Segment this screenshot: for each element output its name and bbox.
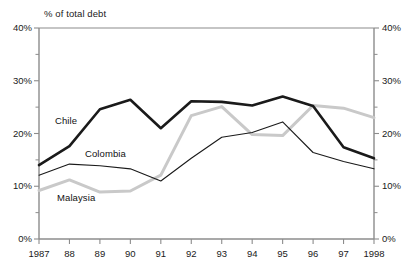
y-axis-label-right-40: 40% <box>382 22 402 33</box>
x-axis-label-92: 92 <box>186 248 197 259</box>
x-axis-label-1987: 1987 <box>28 248 49 259</box>
y-axis-label-right-30: 30% <box>382 75 402 86</box>
x-axis-label-1998: 1998 <box>363 248 384 259</box>
chart-container: % of total debt 0%10%20%30%40%0%10%20%30… <box>0 0 402 274</box>
y-axis-label-right-0: 0% <box>382 233 402 244</box>
y-axis-label-left-40: 40% <box>0 22 32 33</box>
x-axis-label-93: 93 <box>216 248 227 259</box>
x-axis-label-89: 89 <box>95 248 106 259</box>
y-axis-label-right-20: 20% <box>382 128 402 139</box>
line-chart-plot <box>0 0 402 274</box>
series-label-colombia: Colombia <box>85 148 126 159</box>
x-axis-label-94: 94 <box>247 248 258 259</box>
y-axis-label-right-10: 10% <box>382 180 402 191</box>
y-axis-label-left-0: 0% <box>0 233 32 244</box>
x-axis-label-91: 91 <box>156 248 167 259</box>
series-label-chile: Chile <box>55 115 77 126</box>
x-axis-label-96: 96 <box>308 248 319 259</box>
y-axis-label-left-20: 20% <box>0 128 32 139</box>
y-axis-label-left-10: 10% <box>0 180 32 191</box>
y-axis-label-left-30: 30% <box>0 75 32 86</box>
x-axis-label-97: 97 <box>338 248 349 259</box>
series-label-malaysia: Malaysia <box>57 192 95 203</box>
x-axis-label-90: 90 <box>125 248 136 259</box>
x-axis-label-95: 95 <box>277 248 288 259</box>
x-axis-label-88: 88 <box>64 248 75 259</box>
